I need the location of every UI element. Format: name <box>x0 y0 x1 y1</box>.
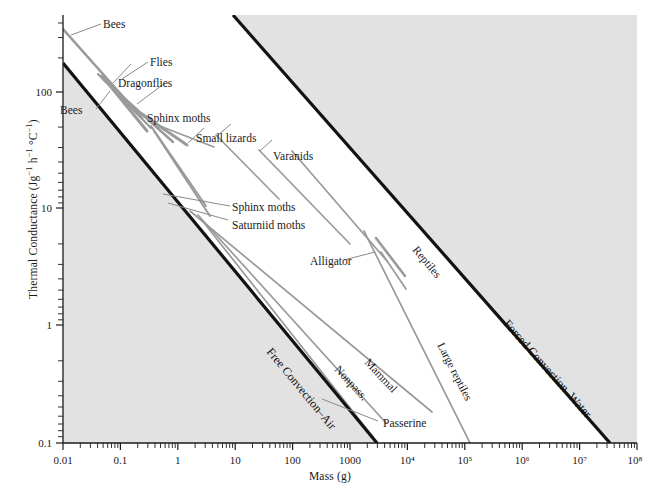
x-axis-title: Mass (g) <box>309 470 351 482</box>
label-saturniid-moths: Saturniid moths <box>232 219 306 231</box>
x-tick-label: 10⁸ <box>628 454 643 466</box>
label-sphinx-moths-lower: Sphinx moths <box>232 201 296 214</box>
y-axis-title: Thermal Conductance (Jg−1 h−1 °C−1) <box>27 119 39 299</box>
y-tick-label: 100 <box>36 86 53 98</box>
x-axis-minor-ticks <box>80 443 634 448</box>
y-tick-label: 10 <box>41 202 53 214</box>
y-tick-label: 1 <box>47 319 53 331</box>
x-tick-label: 1 <box>175 454 181 466</box>
x-tick-label: 0.01 <box>53 454 72 466</box>
x-tick-label: 10⁴ <box>400 454 415 466</box>
label-small-lizards: Small lizards <box>196 132 257 144</box>
x-tick-label: 0.1 <box>114 454 128 466</box>
label-bees-lower: Bees <box>60 104 83 116</box>
label-passerine: Passerine <box>383 417 426 429</box>
x-tick-label: 1000 <box>339 454 362 466</box>
label-flies: Flies <box>150 56 173 68</box>
x-axis-major-ticks <box>63 443 637 450</box>
x-tick-label: 100 <box>284 454 301 466</box>
y-tick-label: 0.1 <box>38 437 52 449</box>
x-tick-label: 10⁶ <box>515 454 530 466</box>
y-axis-title-wrapper: Thermal Conductance (Jg−1 h−1 °C−1) <box>23 99 41 319</box>
thermal-conductance-figure: 0.01 0.1 1 10 100 1000 10⁴ 10⁵ 10⁶ 10⁷ 1… <box>0 0 660 487</box>
y-axis-major-ticks <box>56 92 63 443</box>
label-dragonflies: Dragonflies <box>118 77 173 90</box>
label-sphinx-moths-upper: Sphinx moths <box>147 112 211 125</box>
x-tick-label: 10⁵ <box>457 454 472 466</box>
x-tick-label: 10 <box>230 454 242 466</box>
x-axis-title-wrapper: Mass (g) <box>0 466 660 484</box>
label-alligator: Alligator <box>310 255 352 268</box>
chart-canvas: 0.01 0.1 1 10 100 1000 10⁴ 10⁵ 10⁶ 10⁷ 1… <box>0 0 660 487</box>
x-tick-labels: 0.01 0.1 1 10 100 1000 10⁴ 10⁵ 10⁶ 10⁷ 1… <box>53 454 642 466</box>
y-axis-minor-ticks <box>58 23 63 437</box>
label-bees-upper: Bees <box>103 18 126 30</box>
label-varanids: Varanids <box>273 150 314 162</box>
x-tick-label: 10⁷ <box>572 454 587 466</box>
